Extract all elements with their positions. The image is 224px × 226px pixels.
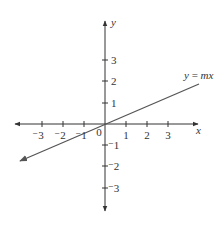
line-label-eq: = — [189, 69, 201, 81]
x-tick-label-2: 2 — [144, 129, 150, 141]
x-tick-label-neg1: ⁻1 — [75, 129, 86, 141]
y-tick-label-2: 2 — [111, 75, 117, 87]
origin-label: 0 — [96, 126, 102, 138]
x-tick-label-neg2: ⁻2 — [54, 129, 65, 141]
y-tick-label-neg1: ⁻1 — [108, 139, 119, 151]
y-tick-label-3: 3 — [111, 54, 117, 66]
x-axis-label: x — [195, 124, 201, 136]
line-label: y = mx — [183, 69, 214, 81]
x-tick-label-1: 1 — [123, 129, 129, 141]
coordinate-plane: ⁻3 ⁻2 ⁻1 1 2 3 0 3 2 1 ⁻1 ⁻2 ⁻3 y x y = … — [0, 0, 224, 226]
y-axis-label: y — [110, 16, 116, 28]
x-tick-label-neg3: ⁻3 — [32, 129, 44, 141]
y-tick-label-neg2: ⁻2 — [108, 160, 119, 172]
y-tick-label-1: 1 — [111, 97, 117, 109]
x-tick-label-3: 3 — [165, 129, 171, 141]
line-label-rhs: mx — [201, 69, 214, 81]
y-tick-label-neg3: ⁻3 — [108, 182, 120, 194]
